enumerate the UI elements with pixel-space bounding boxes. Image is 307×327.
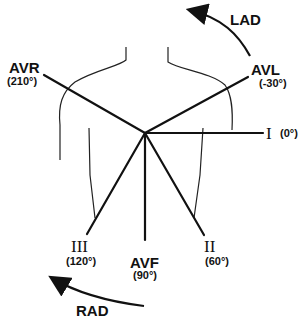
avf-label: AVF xyxy=(130,255,159,270)
avr-angle: (210°) xyxy=(7,76,37,87)
avl-angle: (-30°) xyxy=(259,78,287,89)
lead-ii-angle: (60°) xyxy=(205,256,229,267)
lead-iii-label: III xyxy=(71,238,88,255)
lead-i-angle: (0°) xyxy=(280,128,298,139)
lead-ii-label: II xyxy=(204,238,215,255)
avf-angle: (90°) xyxy=(133,270,157,281)
rad-label: RAD xyxy=(76,303,109,318)
lead-i-label: I xyxy=(266,125,272,142)
lad-label: LAD xyxy=(230,12,261,27)
lead-iii-angle: (120°) xyxy=(66,256,96,267)
avl-label: AVL xyxy=(251,62,280,77)
avr-label: AVR xyxy=(9,60,40,75)
